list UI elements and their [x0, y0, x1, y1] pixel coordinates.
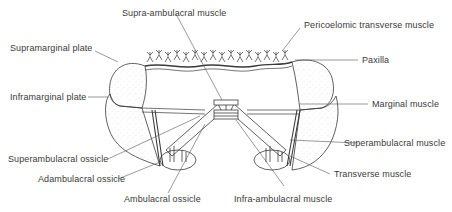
label-pericoelomic-transverse-muscle: Pericoelomic transverse muscle	[304, 20, 434, 30]
label-superambulacral-ossicle: Superambulacral ossicle	[8, 154, 108, 164]
label-adambulacral-ossicle: Adambulacral ossicle	[38, 174, 125, 184]
label-infra-ambulacral-muscle: Infra-ambulacral muscle	[234, 194, 332, 204]
label-transverse-muscle: Transverse muscle	[334, 169, 411, 179]
label-ambulacral-ossicle: Ambulacral ossicle	[124, 194, 201, 204]
aboral-body-wall	[145, 62, 292, 71]
label-supra-ambulacral-muscle: Supra-ambulacral muscle	[122, 8, 226, 18]
label-marginal-muscle: Marginal muscle	[372, 99, 439, 109]
paxillae-row	[147, 50, 288, 62]
right-supramarginal-plate	[292, 60, 334, 110]
label-superambulacral-muscle: Superambulacral muscle	[344, 138, 445, 148]
left-supramarginal-plate	[109, 63, 146, 108]
anatomy-figure: Supra-ambulacral muscle Pericoelomic tra…	[0, 0, 452, 212]
label-paxilla: Paxilla	[362, 55, 389, 65]
label-supramarginal-plate: Supramarginal plate	[10, 43, 92, 53]
label-inframarginal-plate: Inframarginal plate	[10, 92, 86, 102]
